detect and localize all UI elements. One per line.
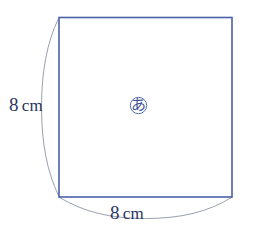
left-dimension-label: 8cm — [9, 95, 43, 114]
bottom-dimension-brace — [60, 198, 232, 219]
left-dimension-value: 8 — [9, 94, 19, 115]
region-mark-label: あ — [130, 97, 147, 114]
bottom-dimension-unit: cm — [123, 204, 144, 223]
bottom-dimension-value: 8 — [110, 202, 120, 223]
left-dimension-brace — [42, 19, 59, 196]
figure-canvas: 8cm 8cm あ — [0, 0, 253, 240]
left-dimension-unit: cm — [22, 96, 43, 115]
bottom-dimension-label: 8cm — [110, 203, 144, 222]
